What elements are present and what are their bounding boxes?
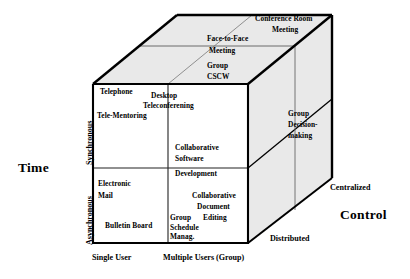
axis-tick-multiple-users: Multiple Users (Group) (163, 254, 244, 263)
axis-tick-distributed: Distributed (270, 235, 310, 244)
cell-bulletin-board: Bulletin Board (105, 222, 152, 230)
cell-telephone: Telephone (100, 88, 133, 96)
cell-group-cscw-line1: Group (207, 62, 228, 70)
cell-collab-doc-line3: Editing (203, 214, 227, 222)
cell-desktop: Desktop (151, 92, 177, 100)
cell-collaborative-software-line1: Collaborative (175, 144, 219, 152)
cell-conference-room: Conference Room (255, 15, 312, 23)
cell-development: Development (175, 170, 217, 178)
cscw-cube-figure: Telephone Tele-Mentoring Desktop Telecon… (0, 0, 410, 279)
cell-mail: Mail (98, 192, 113, 200)
cell-group-cscw-line2: CSCW (207, 73, 229, 81)
axis-name-control: Control (340, 208, 387, 223)
cell-group-decision-line1: Group (288, 110, 309, 118)
cell-teleconferening: Teleconferening (143, 102, 194, 110)
cell-group-decision-line3: making (288, 132, 312, 140)
axis-tick-single-user: Single User (92, 254, 131, 263)
cell-face-to-face: Face-to-Face (207, 35, 248, 43)
cell-group-schedule-line3: Manag. (170, 233, 194, 241)
cell-group-schedule-line1: Group (170, 214, 191, 222)
cube-geometry (0, 0, 410, 279)
axis-tick-asynchronous: Asynchronous (86, 196, 95, 245)
cell-tele-mentoring: Tele-Mentoring (97, 112, 147, 120)
cell-group-decision-line2: Decision- (288, 121, 318, 129)
cell-collab-doc-line1: Collaborative (192, 192, 236, 200)
cell-group-schedule-line2: Schedule (170, 224, 199, 232)
axis-name-time: Time (18, 161, 49, 176)
cell-electronic: Electronic (98, 180, 131, 188)
cell-face-meeting: Meeting (209, 47, 235, 55)
cell-conference-meeting: Meeting (272, 26, 298, 34)
cell-collab-doc-line2: Document (197, 203, 230, 211)
axis-tick-centralized: Centralized (330, 184, 370, 193)
axis-tick-synchronous: Synchronous (86, 121, 95, 165)
cell-collaborative-software-line2: Software (175, 155, 204, 163)
